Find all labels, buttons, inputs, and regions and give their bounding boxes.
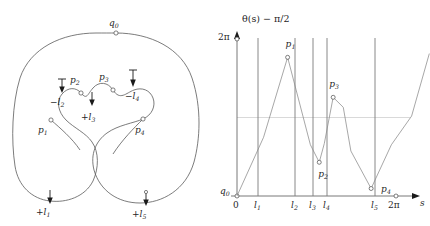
label-q0-origin: q0 (220, 186, 230, 197)
label-plus-l5: +l5 (132, 209, 146, 220)
outer-boundary-path (13, 33, 199, 203)
theta-plot-panel: θ(s) − π/2 2π s q0 (215, 0, 430, 226)
xtick-label-0: 0 (233, 200, 239, 210)
label-p3: p3 (99, 72, 109, 83)
figure-root: q0 p1 p2 p3 p4 +l1 (0, 0, 430, 226)
x-axis (231, 193, 420, 199)
xaxis-label-s: s (420, 198, 425, 208)
plot-title: θ(s) − π/2 (242, 13, 290, 24)
ytick-label-2pi: 2π (218, 32, 230, 42)
xtick-label-l1: l1 (254, 200, 261, 211)
label-p1: p1 (286, 39, 296, 50)
xtick-label-l5: l5 (371, 200, 378, 211)
label-p1: p1 (38, 125, 48, 136)
theta-plot-svg: θ(s) − π/2 2π s q0 (215, 0, 430, 226)
label-minus-l2: −l2 (50, 97, 64, 108)
xtick-label-l4: l4 (323, 200, 330, 211)
marker-p4 (369, 187, 373, 191)
marker-p3 (331, 95, 335, 99)
marker-p4 (141, 117, 145, 121)
y-axis (234, 31, 240, 196)
marker-p2 (317, 160, 321, 164)
marker-x-2pi (394, 194, 398, 198)
label-p2: p2 (70, 75, 80, 86)
label-plus-l3: +l3 (81, 112, 95, 123)
theta-curve (237, 54, 429, 196)
xtick-label-2pi: 2π (388, 200, 400, 210)
marker-p1 (49, 118, 53, 122)
arrow-minus-l4 (129, 70, 137, 87)
label-plus-l1: +l1 (36, 207, 50, 218)
marker-p1 (286, 55, 290, 59)
arrow-plus-l1 (47, 190, 53, 204)
label-p4: p4 (135, 125, 145, 136)
arrow-plus-l3 (89, 92, 95, 106)
label-minus-l4: −l4 (125, 91, 139, 102)
marker-p3 (111, 88, 115, 92)
marker-p2 (79, 91, 83, 95)
xtick-label-l3: l3 (309, 200, 316, 211)
curve-diagram-svg: q0 p1 p2 p3 p4 +l1 (0, 0, 215, 226)
label-p2: p2 (318, 169, 328, 180)
label-q0: q0 (109, 18, 119, 29)
marker-ytop-2pi (235, 37, 239, 41)
label-p3: p3 (329, 79, 339, 90)
marker-q0 (114, 31, 118, 35)
marker-l5-base (144, 190, 147, 193)
arrow-plus-l5 (143, 190, 149, 206)
curve-diagram-panel: q0 p1 p2 p3 p4 +l1 (0, 0, 215, 226)
label-p4: p4 (381, 184, 391, 195)
xtick-label-l2: l2 (291, 200, 298, 211)
crossing-stroke-left (51, 120, 80, 150)
